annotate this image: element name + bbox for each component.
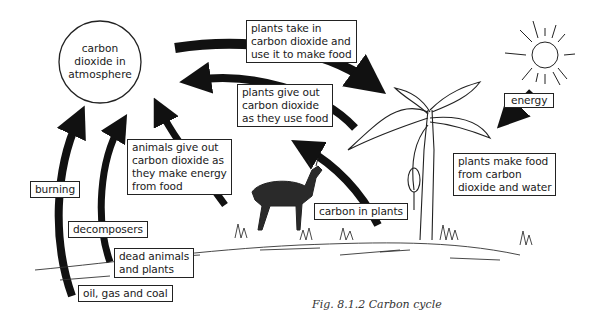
label-plants-make-food: plants make food from carbon dioxide and… — [453, 153, 556, 196]
arrow-decomposers — [101, 126, 120, 262]
label-plants-take-in: plants take in carbon dioxide and use it… — [246, 20, 357, 63]
arrow-burning — [59, 120, 78, 296]
label-fossil-fuels: oil, gas and coal — [78, 285, 173, 302]
label-plants-give-out: plants give out carbon dioxide as they u… — [237, 84, 333, 127]
label-energy: energy — [504, 93, 554, 108]
atmosphere-node: carbon dioxide in atmosphere — [62, 42, 138, 81]
label-dead-animals: dead animals and plants — [114, 248, 194, 278]
label-carbon-in-plants: carbon in plants — [314, 203, 408, 220]
figure-caption: Fig. 8.1.2 Carbon cycle — [312, 298, 442, 311]
label-decomposers: decomposers — [68, 221, 148, 238]
label-burning: burning — [30, 181, 80, 198]
sun-icon — [505, 21, 575, 85]
label-animals-give-out: animals give out carbon dioxide as they … — [127, 139, 232, 195]
deer-animal — [252, 158, 322, 230]
